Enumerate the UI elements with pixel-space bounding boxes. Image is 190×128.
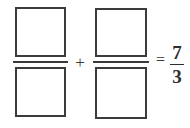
result-fraction: 7 3 [168, 43, 186, 86]
first-fraction-denominator-box[interactable] [15, 67, 66, 117]
second-fraction-numerator-box[interactable] [95, 8, 147, 57]
second-fraction-denominator-box[interactable] [95, 67, 147, 119]
second-blank-fraction [93, 8, 149, 119]
second-fraction-bar [93, 61, 149, 63]
worksheet-canvas: + = 7 3 [0, 0, 190, 128]
plus-operator: + [71, 54, 89, 72]
equals-operator: = [153, 50, 168, 70]
result-denominator: 3 [172, 67, 182, 86]
first-blank-fraction [13, 7, 68, 117]
result-numerator: 7 [172, 43, 182, 62]
first-fraction-bar [13, 61, 68, 63]
result-fraction-bar [170, 64, 184, 65]
first-fraction-numerator-box[interactable] [15, 7, 66, 57]
